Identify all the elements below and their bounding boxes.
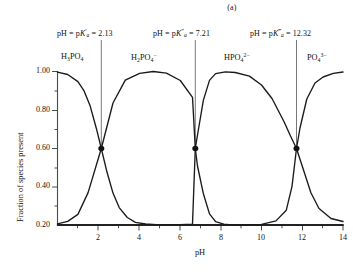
ytick-label-0-40: 0.40 [24, 181, 50, 190]
xtick-label-10: 10 [253, 233, 269, 242]
pka3-annotation: pH = pK‴a = 12.32 [250, 27, 311, 38]
ytick-label-0-80: 0.80 [24, 105, 50, 114]
h2po4-core: PO [140, 53, 151, 62]
pka3-value: 12.32 [293, 29, 312, 38]
crossing-marker-pka1 [98, 146, 104, 151]
xtick-label-2: 2 [90, 233, 106, 242]
xtick-label-6: 6 [172, 233, 188, 242]
xtick-label-4: 4 [131, 233, 147, 242]
pka3-prefix: pH = p [250, 29, 273, 38]
pka2-equals: = [187, 29, 196, 38]
ytick-label-1-00: 1.00 [24, 66, 50, 75]
y-axis-title: Fraction of species present [16, 132, 25, 222]
xtick-label-8: 8 [213, 233, 229, 242]
panel-caption: (a) [212, 3, 252, 12]
hpo4-charge: 2− [244, 52, 250, 58]
ytick-label-0-60: 0.60 [24, 143, 50, 152]
crossing-marker-pka3 [294, 146, 300, 151]
pka2-prefix: pH = p [153, 29, 176, 38]
x-axis-title: pH [180, 248, 220, 257]
xtick-label-14: 14 [335, 233, 351, 242]
species-label-po4-3minus: PO43− [307, 52, 327, 63]
hpo4-core: PO [230, 53, 241, 62]
ytick-label-0-20: 0.20 [24, 220, 50, 229]
species-label-h3po4: H3PO4 [61, 52, 83, 62]
h3po4-sub2: 4 [81, 56, 84, 62]
pka3-equals: = [284, 29, 293, 38]
pka1-value: 2.13 [98, 29, 112, 38]
pka1-equals: = [89, 29, 98, 38]
po4-core: PO [307, 53, 318, 62]
species-label-hpo4-2minus: HPO42− [224, 52, 250, 63]
crossing-marker-pka2 [192, 146, 198, 151]
pka2-value: 7.21 [196, 29, 210, 38]
species-label-h2po4-minus: H2PO4− [131, 52, 157, 63]
xtick-label-12: 12 [294, 233, 310, 242]
pka1-prefix: pH = p [57, 29, 80, 38]
pka2-annotation: pH = pK″a = 7.21 [153, 27, 210, 38]
h2po4-charge: − [153, 52, 156, 58]
h3po4-core: PO [70, 52, 81, 61]
pka1-annotation: pH = pK′a = 2.13 [57, 27, 113, 38]
po4-charge: 3− [321, 52, 327, 58]
